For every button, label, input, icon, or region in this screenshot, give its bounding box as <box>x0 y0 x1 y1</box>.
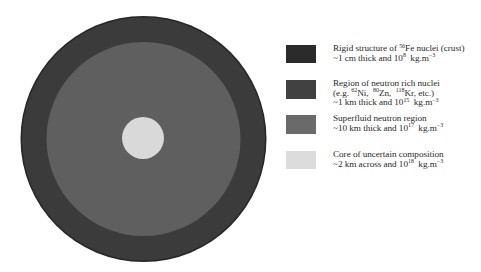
legend-text-neutron-rich: Region of neutron rich nuclei (e.g. 62Ni… <box>333 79 440 108</box>
neutron-star-diagram <box>0 0 290 272</box>
legend-item-superfluid: Superfluid neutron region ~10 km thick a… <box>286 115 481 145</box>
legend-item-core: Core of uncertain composition ~2 km acro… <box>286 151 481 181</box>
legend-swatch-superfluid <box>286 115 316 134</box>
legend-text-crust: Rigid structure of 56Fe nuclei (crust) ~… <box>333 44 464 63</box>
legend-line: ~10 km thick and 1017 kg.m−3 <box>333 124 443 134</box>
core <box>122 117 164 159</box>
legend-line: ~1 cm thick and 108 kg.m−3 <box>333 54 464 64</box>
legend-text-core: Core of uncertain composition ~2 km acro… <box>333 150 444 169</box>
legend-line: ~2 km across and 1018 kg.m−3 <box>333 160 444 170</box>
legend-line: ~1 km thick and 1015 kg.m−3 <box>333 98 440 108</box>
legend-swatch-crust <box>286 45 316 63</box>
legend-item-neutron-rich: Region of neutron rich nuclei (e.g. 62Ni… <box>286 80 481 110</box>
legend-text-superfluid: Superfluid neutron region ~10 km thick a… <box>333 114 443 133</box>
legend-swatch-core <box>286 151 316 169</box>
legend-swatch-neutron-rich <box>286 80 316 99</box>
legend-item-crust: Rigid structure of 56Fe nuclei (crust) ~… <box>286 45 481 75</box>
